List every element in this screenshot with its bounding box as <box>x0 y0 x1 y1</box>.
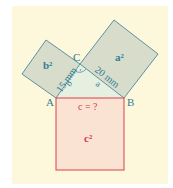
square-a-label: a² <box>115 51 125 63</box>
vertex-c-label: C <box>73 51 80 63</box>
pythagoras-diagram: C A B b² a² c² 15 mm 20 mm b a c = ? <box>0 0 173 188</box>
vertex-a-label: A <box>46 96 54 108</box>
right-angle-dot <box>80 69 82 71</box>
square-c-label: c² <box>84 132 93 144</box>
square-b-label: b² <box>43 59 53 71</box>
vertex-b-label: B <box>127 96 134 108</box>
side-c-question: c = ? <box>78 101 98 112</box>
